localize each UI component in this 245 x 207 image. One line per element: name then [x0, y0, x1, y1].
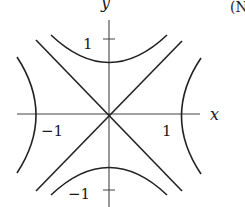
hyperbola-right-branch [182, 58, 202, 174]
hyperbola-left-branch [17, 57, 36, 173]
x-tick-label-neg: −1 [41, 122, 63, 140]
y-axis-label: y [100, 0, 111, 12]
corner-text: (N [230, 0, 245, 15]
y-tick-label-pos: 1 [83, 35, 93, 53]
x-axis-label: x [210, 105, 219, 124]
x-tick-label-pos: 1 [162, 122, 172, 140]
hyperbola-diagram: y x 1 −1 −1 1 (N [0, 0, 245, 207]
y-tick-label-neg: −1 [68, 185, 90, 203]
